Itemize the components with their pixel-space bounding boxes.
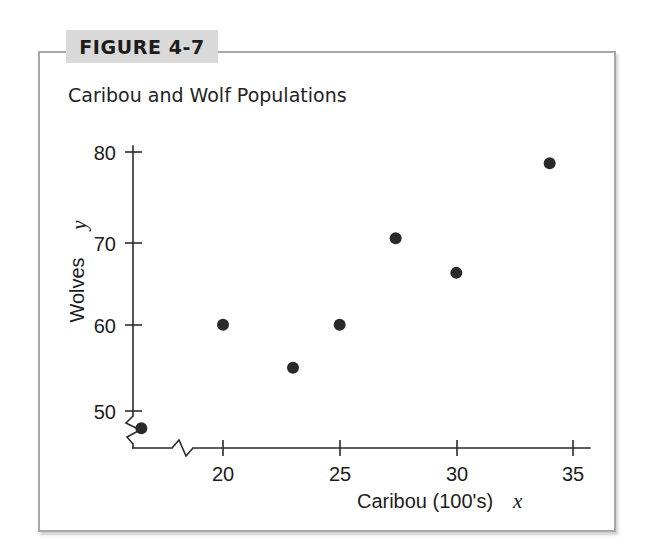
y-axis-variable: y: [67, 220, 91, 232]
x-tick-label-25: 25: [329, 463, 351, 485]
data-point: [544, 157, 556, 169]
data-point: [450, 267, 462, 279]
y-tick-label-50: 50: [94, 401, 116, 423]
data-points-group: [135, 157, 555, 434]
data-point: [390, 232, 402, 244]
x-tick-label-35: 35: [562, 463, 584, 485]
data-point: [135, 422, 147, 434]
y-tick-label-80: 80: [94, 142, 116, 164]
x-axis-title: Caribou (100's): [357, 490, 493, 512]
figure-container: FIGURE 4-7 Caribou and Wolf Populations …: [0, 0, 645, 556]
scatter-plot: 80 70 60 50 20 25 30 35 Caribou (100's) …: [0, 0, 645, 556]
x-tick-label-30: 30: [446, 463, 468, 485]
x-axis-variable: x: [512, 489, 523, 513]
x-axis-break-icon: [172, 440, 193, 456]
data-point: [217, 319, 229, 331]
y-tick-label-70: 70: [94, 233, 116, 255]
x-tick-label-20: 20: [212, 463, 234, 485]
y-axis-title: Wolves: [66, 257, 88, 322]
data-point: [287, 362, 299, 374]
data-point: [334, 319, 346, 331]
y-tick-label-60: 60: [94, 315, 116, 337]
